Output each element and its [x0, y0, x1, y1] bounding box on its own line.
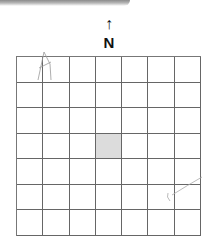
- grid-cell-r5-c6: [148, 159, 174, 185]
- grid-cell-r3-c1: [17, 108, 43, 134]
- grid-cell-r7-c7: [175, 210, 201, 236]
- grid-cell-r4-c6: [148, 134, 174, 160]
- grid-cell-r7-c3: [70, 210, 96, 236]
- grid-cell-r5-c1: [17, 159, 43, 185]
- grid-cell-r5-c7: [175, 159, 201, 185]
- grid-cell-r5-c2: [43, 159, 69, 185]
- grid-cell-r6-c7: [175, 185, 201, 211]
- grid-cell-r3-c3: [70, 108, 96, 134]
- grid-cell-r2-c2: [43, 83, 69, 109]
- grid-cell-r2-c1: [17, 83, 43, 109]
- grid-cell-r1-c3: [70, 57, 96, 83]
- grid-cell-r6-c5: [122, 185, 148, 211]
- grid-cell-r2-c4: [96, 83, 122, 109]
- grid-cell-r3-c4: [96, 108, 122, 134]
- grid-cell-r1-c6: [148, 57, 174, 83]
- grid-cell-r4-c5: [122, 134, 148, 160]
- grid-cell-shaded: [96, 134, 122, 160]
- grid-cell-r7-c5: [122, 210, 148, 236]
- grid-cell-r3-c6: [148, 108, 174, 134]
- grid-cell-r5-c4: [96, 159, 122, 185]
- compass: ↑ N: [96, 16, 122, 51]
- grid-cell-r3-c5: [122, 108, 148, 134]
- grid-cell-r2-c7: [175, 83, 201, 109]
- grid-cell-r2-c3: [70, 83, 96, 109]
- grid-cell-r7-c4: [96, 210, 122, 236]
- map-grid: [16, 56, 201, 236]
- grid-cell-r2-c6: [148, 83, 174, 109]
- grid-cell-r7-c2: [43, 210, 69, 236]
- grid-cell-r4-c1: [17, 134, 43, 160]
- grid-cell-r4-c3: [70, 134, 96, 160]
- grid-cell-r1-c5: [122, 57, 148, 83]
- grid-cell-r1-c7: [175, 57, 201, 83]
- grid-cell-r6-c3: [70, 185, 96, 211]
- grid-cell-r6-c4: [96, 185, 122, 211]
- grid-cell-r3-c7: [175, 108, 201, 134]
- grid-cell-r7-c6: [148, 210, 174, 236]
- grid-cell-r5-c3: [70, 159, 96, 185]
- scan-shadow: [0, 0, 130, 6]
- north-label: N: [96, 35, 122, 51]
- grid-cell-r5-c5: [122, 159, 148, 185]
- grid-cell-r1-c4: [96, 57, 122, 83]
- grid-cell-r1-c2: [43, 57, 69, 83]
- grid-cell-r7-c1: [17, 210, 43, 236]
- grid-cell-r4-c7: [175, 134, 201, 160]
- grid-cell-r1-c1: [17, 57, 43, 83]
- grid-cell-r3-c2: [43, 108, 69, 134]
- grid-cell-r6-c2: [43, 185, 69, 211]
- grid-cell-r6-c6: [148, 185, 174, 211]
- grid-cell-r4-c2: [43, 134, 69, 160]
- grid-cell-r6-c1: [17, 185, 43, 211]
- grid-cell-r2-c5: [122, 83, 148, 109]
- north-arrow-icon: ↑: [96, 16, 122, 32]
